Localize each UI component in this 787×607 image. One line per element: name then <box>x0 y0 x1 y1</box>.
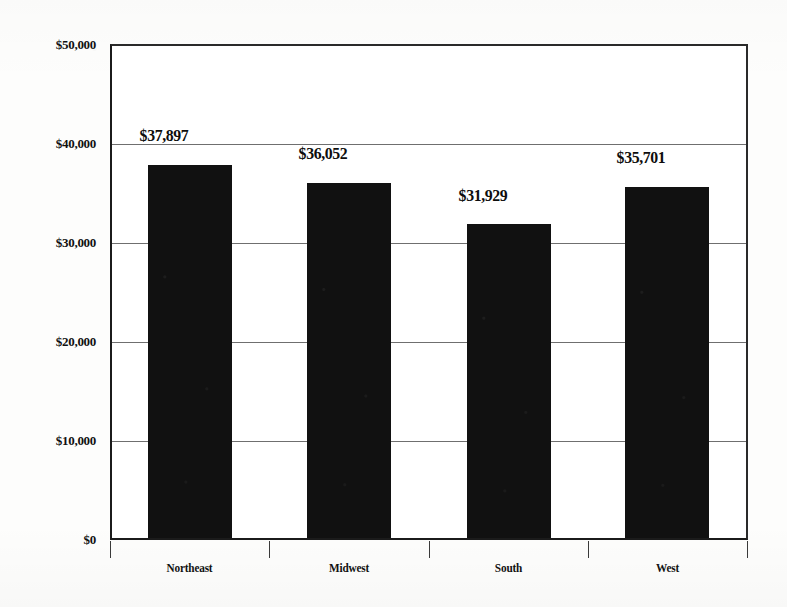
x-tick-mark-1 <box>269 541 270 558</box>
y-axis-label-0: $0 <box>0 532 96 548</box>
bar-value-midwest: $36,052 <box>267 144 379 164</box>
plot-area <box>110 44 748 540</box>
y-axis-label-40000: $40,000 <box>0 136 96 152</box>
bar-midwest[interactable] <box>307 183 391 538</box>
x-tick-mark-2 <box>429 541 430 558</box>
x-axis-label-midwest: Midwest <box>277 561 421 576</box>
bar-northeast[interactable] <box>148 165 232 538</box>
x-axis-label-northeast: Northeast <box>118 561 261 576</box>
bar-value-west: $35,701 <box>585 148 697 168</box>
bar-south[interactable] <box>467 224 551 538</box>
x-tick-mark-3 <box>588 541 589 558</box>
x-axis-label-south: South <box>437 561 580 576</box>
y-axis-label-50000: $50,000 <box>0 37 96 53</box>
bar-value-northeast: $37,897 <box>108 126 220 146</box>
bar-value-south: $31,929 <box>427 186 539 206</box>
y-axis-label-10000: $10,000 <box>0 433 96 449</box>
y-axis-label-30000: $30,000 <box>0 235 96 251</box>
bar-west[interactable] <box>625 187 709 538</box>
x-tick-mark-right <box>747 541 748 558</box>
x-tick-mark-left <box>110 541 111 558</box>
chart-page: $50,000 $40,000 $30,000 $20,000 $10,000 … <box>0 0 787 607</box>
y-axis-label-20000: $20,000 <box>0 334 96 350</box>
x-axis-label-west: West <box>596 561 739 576</box>
